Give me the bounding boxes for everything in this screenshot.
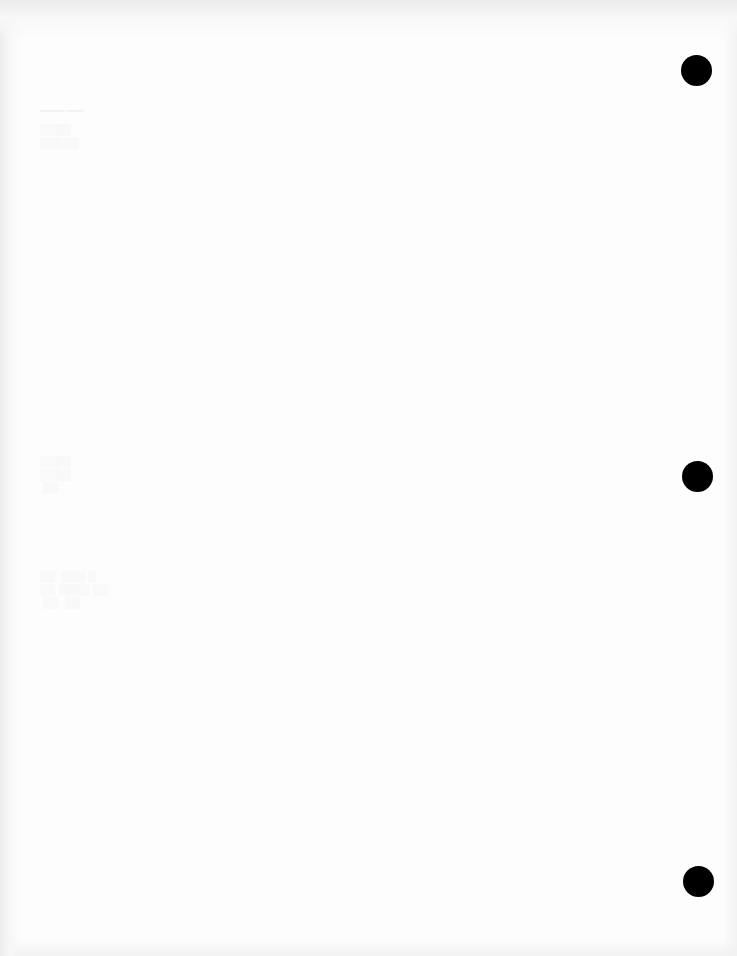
bleed-through-mark-1: ▔▔▔ ▔▔ ▒▒▒▒ ▒▒▒▒▒: [40, 110, 83, 149]
punch-hole-middle: [682, 461, 713, 492]
scanned-page: ▔▔▔ ▔▔ ▒▒▒▒ ▒▒▒▒▒ ▒▒▒▒ ▒▒▒▒ ▒▒ ▒▒ ▒▒▒ ▒ …: [0, 0, 737, 956]
punch-hole-bottom: [683, 866, 714, 897]
bleed-through-mark-3: ▒▒ ▒▒▒ ▒ ▒▒ ▒▒▒▒ ▒▒ ▒▒ ▒▒: [40, 570, 108, 609]
punch-hole-top: [681, 55, 712, 86]
bleed-through-mark-2: ▒▒▒▒ ▒▒▒▒ ▒▒: [40, 455, 71, 494]
